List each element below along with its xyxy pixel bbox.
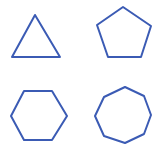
shapes-svg bbox=[0, 0, 158, 151]
octagon-shape bbox=[95, 87, 151, 143]
shapes-canvas bbox=[0, 0, 158, 151]
triangle-shape bbox=[12, 15, 60, 57]
pentagon-shape bbox=[97, 7, 151, 57]
hexagon-shape bbox=[11, 91, 67, 140]
